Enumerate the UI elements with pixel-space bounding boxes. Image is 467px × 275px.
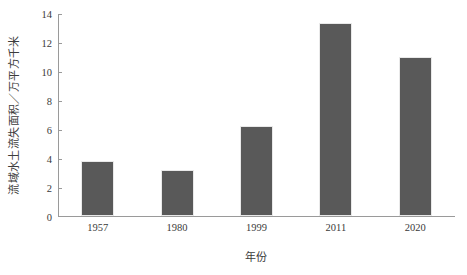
x-axis-tick-label: 1957 [87,222,108,233]
x-axis-tick-label: 1980 [167,222,188,233]
x-axis-tick-label: 2011 [326,222,347,233]
y-axis-tick-mark [58,43,62,44]
y-axis-tick-mark [58,130,62,131]
y-axis-tick-mark [58,101,62,102]
y-axis-tick-mark [58,188,62,189]
y-axis-tick-label: 6 [47,125,52,136]
plot-area [58,14,455,217]
y-axis-tick-label: 0 [47,212,52,223]
x-axis-spine [58,216,455,217]
bar [399,57,432,217]
y-axis-tick-mark [58,72,62,73]
x-axis-tick-labels: 19571980199920112020 [58,222,455,242]
y-axis-tick-label: 10 [42,67,53,78]
bar [81,161,114,216]
y-axis-tick-label: 4 [47,154,52,165]
y-axis-title-text: 流域水土流失面积／万平方千米 [5,35,21,195]
bar [319,23,352,216]
bar [240,126,273,216]
x-axis-tick-label: 1999 [246,222,267,233]
y-axis-tick-label: 8 [47,96,52,107]
bar-chart-figure: 流域水土流失面积／万平方千米 02468101214 1957198019992… [0,0,467,275]
y-axis-tick-labels: 02468101214 [26,0,56,275]
y-axis-tick-mark [58,14,62,15]
y-axis-tick-label: 12 [42,38,53,49]
y-axis-tick-label: 14 [42,9,53,20]
x-axis-title: 年份 [58,248,455,264]
bar [161,170,194,216]
y-axis-tick-label: 2 [47,183,52,194]
y-axis-spine [58,14,59,217]
y-axis-title: 流域水土流失面积／万平方千米 [0,0,26,230]
y-axis-tick-mark [58,159,62,160]
x-axis-tick-label: 2020 [405,222,426,233]
